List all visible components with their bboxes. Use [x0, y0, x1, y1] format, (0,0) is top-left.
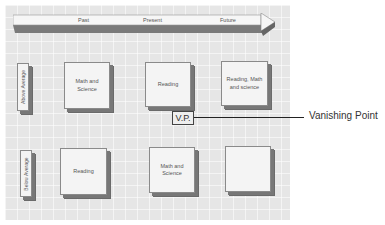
box-label: Reading, Math and science: [225, 76, 265, 90]
box-label: Math and Science: [157, 163, 187, 177]
vanishing-point-callout: Vanishing Point: [309, 110, 378, 121]
box-above-reading: Reading: [145, 62, 191, 107]
box-above-math-science: Math and Science: [64, 62, 110, 109]
vanishing-point-box: V.P.: [172, 111, 194, 125]
timeline-arrow: Past Present Future: [13, 13, 275, 35]
callout-leader-line: [194, 117, 304, 118]
row-label-above-average: Above Average: [17, 63, 29, 111]
box-above-reading-math-science: Reading, Math and science: [221, 61, 268, 106]
timeline-label-present: Present: [143, 17, 162, 23]
box-below-reading: Reading: [60, 148, 107, 195]
box-label: Math and Science: [72, 78, 102, 92]
timeline-label-future: Future: [220, 17, 236, 23]
timeline-label-past: Past: [78, 17, 89, 23]
box-label: Reading: [73, 168, 94, 175]
row-label-text: Below Average: [23, 157, 29, 190]
row-label-below-average: Below Average: [20, 150, 32, 197]
row-label-text: Above Average: [20, 70, 26, 104]
box-below-math-science: Math and Science: [149, 147, 195, 193]
box-below-empty: [225, 146, 271, 192]
box-label: Reading: [158, 81, 179, 88]
